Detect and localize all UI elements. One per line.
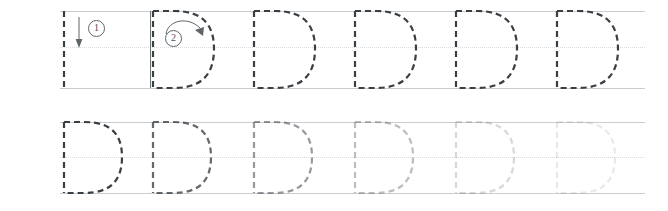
- stroke-number-1: 1: [88, 20, 105, 37]
- letter-cells-practice: [0, 105, 668, 211]
- stroke-marker-2: 2: [158, 12, 218, 62]
- letter-cell-6[interactable]: [556, 0, 657, 106]
- letter-cell-3[interactable]: [253, 105, 354, 211]
- letter-glyph-D: [556, 105, 657, 211]
- letter-glyph-D: [253, 0, 354, 106]
- worksheet-row-practice: [0, 105, 668, 211]
- letter-cell-6[interactable]: [556, 105, 657, 211]
- letter-glyph-D: [455, 105, 556, 211]
- stroke-marker-1: 1: [74, 14, 114, 58]
- letter-cell-2[interactable]: [152, 105, 253, 211]
- letter-glyph-D: [60, 105, 161, 211]
- letter-cell-4[interactable]: [354, 0, 455, 106]
- tracing-worksheet: 1 2: [0, 0, 668, 211]
- worksheet-row-demonstration: 1 2: [0, 0, 668, 106]
- stroke-number-2: 2: [165, 30, 182, 47]
- letter-cell-5[interactable]: [455, 0, 556, 106]
- letter-glyph-D: [152, 105, 253, 211]
- letter-glyph-D: [354, 0, 455, 106]
- letter-glyph-D: [354, 105, 455, 211]
- letter-glyph-D: [253, 105, 354, 211]
- letter-cell-1[interactable]: [60, 105, 161, 211]
- letter-glyph-D: [556, 0, 657, 106]
- letter-cell-1[interactable]: 1: [60, 0, 161, 106]
- letter-cell-3[interactable]: [253, 0, 354, 106]
- letter-cell-4[interactable]: [354, 105, 455, 211]
- letter-cells-demo: 1 2: [0, 0, 668, 106]
- letter-cell-2[interactable]: 2: [152, 0, 253, 106]
- letter-cell-5[interactable]: [455, 105, 556, 211]
- letter-glyph-D: [455, 0, 556, 106]
